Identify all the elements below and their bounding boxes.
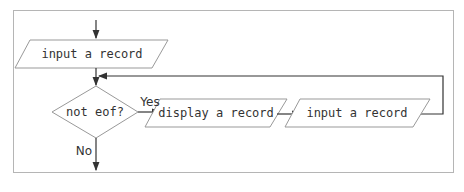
yes-label: Yes (140, 95, 159, 109)
display-record-label: display a record (158, 106, 274, 120)
flowchart-canvas (0, 0, 464, 192)
no-label: No (76, 144, 92, 158)
input-record-label-2: input a record (306, 106, 407, 120)
input-record-label-1: input a record (41, 47, 142, 61)
decision-label: not eof? (66, 105, 124, 119)
